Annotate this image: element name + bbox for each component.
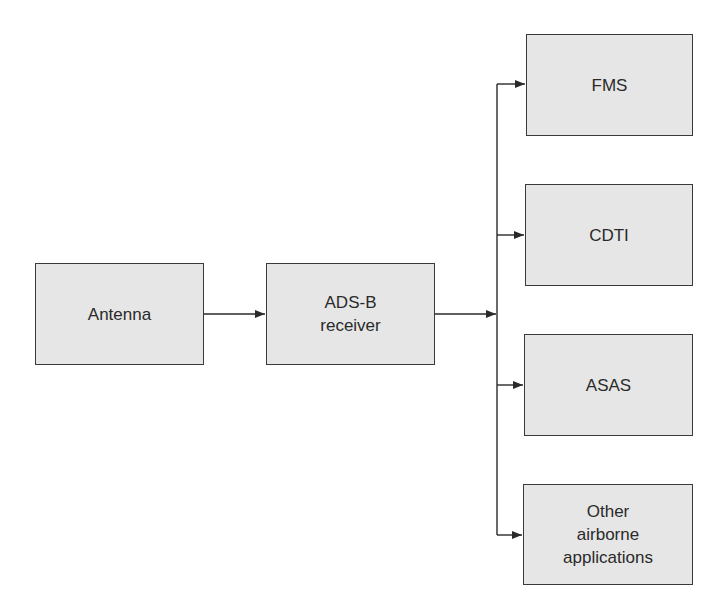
cdti-label: CDTI <box>589 224 629 247</box>
other-airborne-applications-block: Other airborne applications <box>523 484 693 585</box>
other-label-line3: applications <box>563 546 653 569</box>
antenna-block: Antenna <box>35 263 204 365</box>
antenna-label: Antenna <box>88 303 151 326</box>
cdti-block: CDTI <box>525 184 693 286</box>
other-label-line1: Other <box>563 500 653 523</box>
fms-label: FMS <box>592 74 628 97</box>
adsb-receiver-label-line2: receiver <box>320 314 380 337</box>
adsb-receiver-block: ADS-B receiver <box>266 263 435 365</box>
asas-block: ASAS <box>524 334 693 436</box>
asas-label: ASAS <box>586 374 631 397</box>
fms-block: FMS <box>526 34 693 136</box>
other-label-line2: airborne <box>563 523 653 546</box>
adsb-receiver-label-line1: ADS-B <box>320 291 380 314</box>
